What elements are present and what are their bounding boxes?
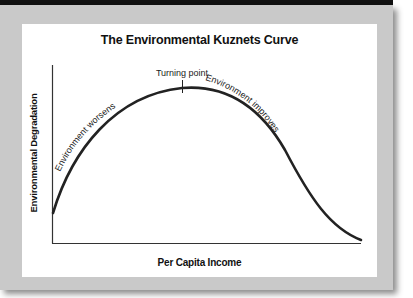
- chart-plot-area: Turning point Environment worsens Enviro…: [0, 0, 413, 298]
- environment-worsens-label: Environment worsens: [53, 100, 118, 173]
- turning-point-label: Turning point: [156, 68, 209, 78]
